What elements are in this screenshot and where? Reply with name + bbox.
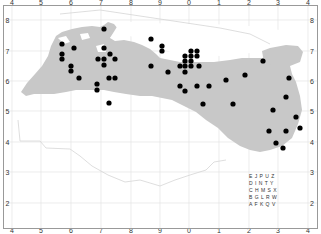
site-marker — [194, 53, 199, 58]
site-marker — [106, 75, 111, 80]
site-marker — [266, 128, 271, 133]
x-tick-label: 7 — [99, 0, 103, 6]
y-tick-label: 6 — [6, 78, 10, 85]
site-marker — [188, 48, 193, 53]
letter-grid-row: A F K Q V — [249, 201, 276, 207]
site-marker — [148, 63, 153, 68]
site-marker — [68, 63, 73, 68]
site-marker — [177, 83, 182, 88]
site-marker — [200, 101, 205, 106]
site-marker — [283, 128, 288, 133]
site-marker — [165, 69, 170, 74]
site-marker — [59, 51, 64, 56]
site-marker — [188, 53, 193, 58]
y-tick-label: 3 — [6, 169, 10, 176]
site-marker — [177, 63, 182, 68]
letter-grid-row: B G L R W — [249, 194, 277, 200]
site-marker — [112, 56, 117, 61]
site-marker — [68, 68, 73, 73]
site-marker — [196, 63, 201, 68]
site-marker — [159, 43, 164, 48]
site-marker — [182, 88, 187, 93]
site-marker — [230, 101, 235, 106]
x-tick-label: 6 — [69, 0, 73, 6]
y-tick-label: 5 — [6, 108, 10, 115]
y-tick-label: 3 — [310, 169, 314, 176]
site-marker — [94, 81, 99, 86]
site-marker — [242, 72, 247, 77]
site-marker — [101, 45, 106, 50]
map-plot: 45678901234 45678901234 8765432 8765432 … — [0, 0, 321, 234]
x-tick-label: 3 — [276, 0, 280, 6]
site-marker — [182, 53, 187, 58]
site-marker — [286, 75, 291, 80]
site-marker — [188, 63, 193, 68]
site-marker — [101, 62, 106, 67]
site-marker — [223, 77, 228, 82]
site-marker — [159, 48, 164, 53]
site-marker — [101, 56, 106, 61]
y-tick-label: 4 — [310, 139, 314, 146]
site-marker — [273, 140, 278, 145]
y-tick-label: 8 — [310, 17, 314, 24]
x-tick-label: 4 — [10, 0, 14, 6]
y-tick-label: 2 — [310, 200, 314, 207]
letter-grid-row: D I N T Y — [249, 180, 274, 186]
site-marker — [59, 56, 64, 61]
x-tick-label: 1 — [217, 0, 221, 6]
site-marker — [283, 94, 288, 99]
y-tick-label: 6 — [310, 78, 314, 85]
site-marker — [112, 75, 117, 80]
y-tick-label: 7 — [310, 48, 314, 55]
letter-grid-legend: E J P U ZD I N T YC H M S XB G L R WA F … — [249, 173, 277, 207]
x-tick-label: 2 — [247, 0, 251, 6]
x-tick-label: 9 — [158, 0, 162, 6]
site-marker — [182, 58, 187, 63]
site-marker — [59, 41, 64, 46]
site-marker — [194, 83, 199, 88]
site-marker — [194, 48, 199, 53]
site-marker — [280, 145, 285, 150]
site-marker — [71, 45, 76, 50]
site-marker — [270, 107, 275, 112]
x-tick-label: 4 — [306, 0, 310, 6]
y-tick-label: 2 — [6, 200, 10, 207]
site-marker — [148, 36, 153, 41]
site-marker — [188, 58, 193, 63]
y-tick-label: 4 — [6, 139, 10, 146]
site-marker — [95, 56, 100, 61]
site-marker — [260, 58, 265, 63]
site-marker — [101, 26, 106, 31]
site-marker — [293, 114, 298, 119]
y-tick-label: 7 — [6, 48, 10, 55]
y-tick-label: 5 — [310, 108, 314, 115]
site-marker — [94, 87, 99, 92]
site-marker — [107, 51, 112, 56]
site-marker — [297, 125, 302, 130]
x-tick-label: 5 — [39, 0, 43, 6]
site-marker — [182, 63, 187, 68]
y-tick-label: 8 — [6, 17, 10, 24]
letter-grid-row: C H M S X — [249, 187, 277, 193]
site-marker — [76, 75, 81, 80]
site-marker — [206, 83, 211, 88]
site-marker — [106, 100, 111, 105]
site-marker — [182, 69, 187, 74]
x-tick-label: 0 — [187, 0, 191, 6]
letter-grid-row: E J P U Z — [249, 173, 275, 179]
x-tick-label: 8 — [129, 0, 133, 6]
